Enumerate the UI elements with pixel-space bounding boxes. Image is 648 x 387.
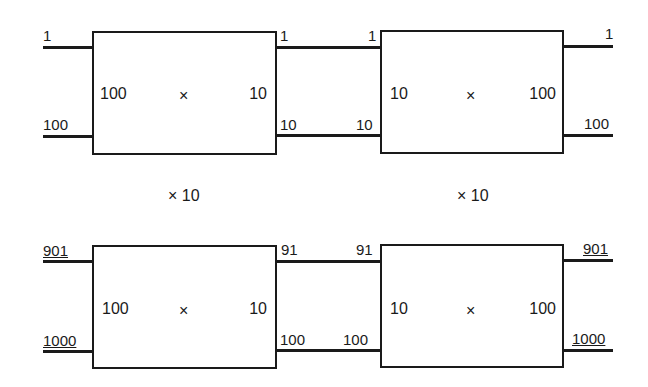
ratio-left: 10: [390, 85, 408, 103]
label-top-s1-out-bottom: 10: [280, 117, 297, 133]
ratio-left: 100: [102, 300, 129, 318]
ratio-right: 100: [529, 85, 556, 103]
stage-box-bottom-2: 10 × 100: [380, 244, 564, 368]
ratio-right: 10: [249, 85, 267, 103]
stage-box-bottom-1: 100 × 10: [92, 245, 277, 369]
wire-bottom-s2-out-top: [563, 259, 613, 262]
wire-top-link-top: [276, 46, 382, 49]
multiplier-right: × 10: [457, 187, 489, 205]
wire-bottom-s2-out-bottom: [563, 349, 613, 352]
wire-top-s2-out-top: [563, 45, 613, 48]
label-bottom-s1-out-top: 91: [281, 242, 298, 258]
ratio-left: 100: [100, 85, 127, 103]
wire-top-s2-out-bottom: [563, 134, 613, 137]
label-bottom-s1-in-bottom: 1000: [43, 333, 76, 349]
ratio-right: 10: [249, 300, 267, 318]
multiplier-left: × 10: [168, 187, 200, 205]
times-symbol: ×: [466, 302, 475, 320]
label-bottom-s2-out-top: 901: [583, 241, 608, 257]
wire-bottom-link-top: [276, 260, 382, 263]
label-bottom-s1-in-top: 901: [43, 243, 68, 259]
wire-bottom-link-bottom: [276, 349, 382, 352]
wire-top-s1-in-bottom: [43, 135, 93, 138]
label-top-s1-in-top: 1: [43, 28, 51, 44]
wire-top-link-bottom: [276, 134, 382, 137]
times-symbol: ×: [179, 87, 188, 105]
label-top-s2-in-top: 1: [368, 28, 376, 44]
wire-top-s1-in-top: [43, 46, 93, 49]
label-bottom-s2-out-bottom: 1000: [572, 331, 605, 347]
label-top-s1-in-bottom: 100: [43, 117, 68, 133]
label-bottom-s1-out-bottom: 100: [280, 332, 305, 348]
label-top-s1-out-top: 1: [280, 28, 288, 44]
stage-box-top-1: 100 × 10: [92, 31, 277, 155]
label-bottom-s2-in-bottom: 100: [343, 332, 368, 348]
label-top-s2-out-bottom: 100: [584, 116, 609, 132]
stage-box-top-2: 10 × 100: [380, 30, 564, 154]
ratio-right: 100: [529, 300, 556, 318]
wire-bottom-s1-in-top: [43, 260, 93, 263]
times-symbol: ×: [466, 87, 475, 105]
wire-bottom-s1-in-bottom: [43, 350, 93, 353]
label-bottom-s2-in-top: 91: [356, 242, 373, 258]
ratio-left: 10: [390, 300, 408, 318]
times-symbol: ×: [179, 302, 188, 320]
label-top-s2-out-top: 1: [605, 26, 613, 42]
label-top-s2-in-bottom: 10: [356, 117, 373, 133]
